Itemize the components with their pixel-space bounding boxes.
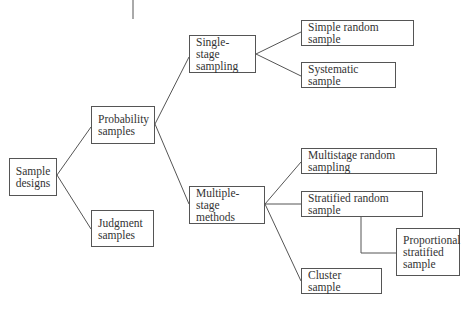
node-stratified-random-sample: Stratified random sample	[301, 191, 423, 217]
node-label: Probability samples	[98, 113, 149, 137]
node-multistage-random-sampling: Multistage random sampling	[301, 148, 437, 174]
edge-multiple-stage-multistage	[265, 162, 301, 204]
node-label: Cluster sample	[308, 269, 375, 293]
node-judgment-samples: Judgment samples	[91, 210, 154, 247]
node-sample-designs: Sample designs	[9, 158, 57, 196]
node-label: Simple random sample	[308, 21, 407, 45]
node-label: Sample designs	[16, 165, 51, 189]
node-probability-samples: Probability samples	[91, 106, 155, 144]
sampling-designs-diagram: Sample designs Probability samples Judgm…	[0, 0, 470, 312]
node-cluster-sample: Cluster sample	[301, 268, 382, 294]
node-label: Judgment samples	[98, 217, 147, 241]
edge-probability-multiple-stage	[155, 124, 189, 204]
node-proportional-stratified-sample: Proportional stratified sample	[396, 228, 460, 276]
edge-single-stage-simple-random	[256, 32, 301, 54]
node-systematic-sample: Systematic sample	[301, 62, 396, 88]
node-label: Single-stage sampling	[196, 36, 249, 72]
node-simple-random-sample: Simple random sample	[301, 20, 414, 46]
node-multiple-stage-methods: Multiple-stage methods	[189, 186, 265, 224]
node-single-stage-sampling: Single-stage sampling	[189, 35, 256, 73]
node-label: Multiple-stage methods	[196, 187, 258, 223]
edge-single-stage-systematic	[256, 54, 301, 76]
node-label: Stratified random sample	[308, 192, 416, 216]
edge-stratified-proportional	[361, 216, 396, 253]
node-label: Systematic sample	[308, 63, 389, 87]
edge-sample-designs-judgment	[57, 175, 91, 229]
node-label: Proportional stratified sample	[403, 234, 461, 270]
edge-probability-single-stage	[155, 57, 189, 124]
edge-multiple-stage-cluster	[265, 204, 301, 281]
node-label: Multistage random sampling	[308, 149, 430, 173]
edge-sample-designs-probability	[57, 127, 91, 175]
